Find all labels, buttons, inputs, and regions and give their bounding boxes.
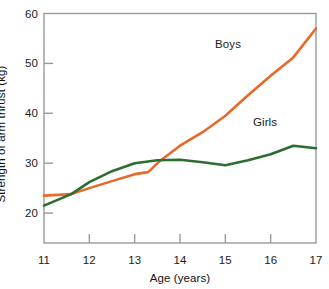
y-tick-label: 30 <box>12 157 38 169</box>
x-tick-label: 13 <box>128 254 141 266</box>
x-axis-title: Age (years) <box>150 272 211 284</box>
y-tick-label: 20 <box>12 207 38 219</box>
series-label-girls: Girls <box>253 116 277 128</box>
x-tick-label: 11 <box>38 254 50 266</box>
x-axis-ticks <box>89 234 270 243</box>
series-line-girls <box>44 146 316 206</box>
y-tick-label: 40 <box>12 107 38 119</box>
x-tick-label: 14 <box>174 254 187 266</box>
chart-plot-area <box>0 0 329 289</box>
x-tick-label: 16 <box>264 254 277 266</box>
y-tick-label: 50 <box>12 57 38 69</box>
x-tick-label: 15 <box>219 254 232 266</box>
x-tick-label: 12 <box>83 254 96 266</box>
chart-container: 2030405060 11121314151617 Strength of ar… <box>0 0 329 289</box>
y-axis-title: Strength of arm thrust (kg) <box>0 66 7 203</box>
series-label-boys: Boys <box>215 38 241 50</box>
x-tick-label: 17 <box>310 254 323 266</box>
y-axis-ticks <box>44 63 53 213</box>
series-line-boys <box>44 28 316 195</box>
plot-frame <box>44 14 316 244</box>
y-tick-label: 60 <box>12 8 38 20</box>
